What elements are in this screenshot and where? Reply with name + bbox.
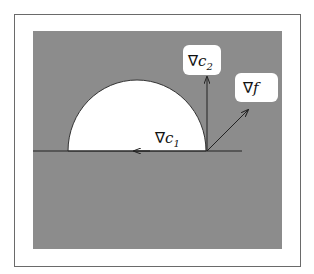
constraint-gradient-diagram: ∇c2 ∇f ∇c1 — [0, 0, 314, 274]
grad-f-label: ∇f — [235, 73, 278, 102]
svg-text:∇f: ∇f — [242, 79, 261, 97]
grad-c2-label: ∇c2 — [183, 45, 221, 75]
